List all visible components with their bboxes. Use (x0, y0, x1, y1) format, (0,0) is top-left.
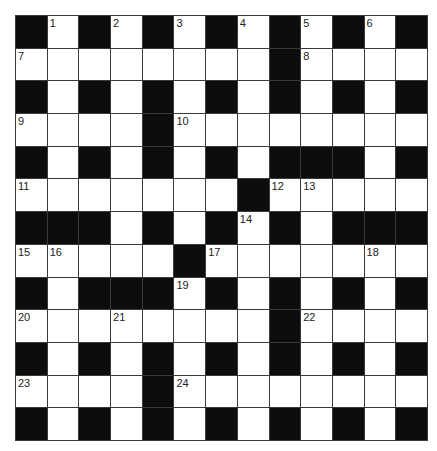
letter-cell[interactable] (238, 114, 269, 146)
letter-cell[interactable] (238, 278, 269, 310)
letter-cell[interactable]: 7 (16, 49, 47, 81)
letter-cell[interactable] (206, 114, 237, 146)
letter-cell[interactable] (174, 310, 205, 342)
letter-cell[interactable] (301, 408, 332, 440)
letter-cell[interactable] (365, 114, 396, 146)
letter-cell[interactable] (396, 114, 427, 146)
letter-cell[interactable] (206, 49, 237, 81)
letter-cell[interactable] (365, 81, 396, 113)
letter-cell[interactable] (396, 245, 427, 277)
letter-cell[interactable] (48, 408, 79, 440)
letter-cell[interactable] (301, 278, 332, 310)
letter-cell[interactable]: 21 (111, 310, 142, 342)
letter-cell[interactable] (48, 343, 79, 375)
letter-cell[interactable] (206, 376, 237, 408)
letter-cell[interactable] (333, 376, 364, 408)
letter-cell[interactable] (396, 310, 427, 342)
letter-cell[interactable]: 12 (270, 179, 301, 211)
letter-cell[interactable] (79, 49, 110, 81)
letter-cell[interactable] (270, 114, 301, 146)
letter-cell[interactable] (174, 49, 205, 81)
letter-cell[interactable] (206, 179, 237, 211)
letter-cell[interactable] (365, 147, 396, 179)
letter-cell[interactable] (301, 114, 332, 146)
letter-cell[interactable] (111, 343, 142, 375)
letter-cell[interactable] (143, 245, 174, 277)
letter-cell[interactable] (79, 376, 110, 408)
letter-cell[interactable]: 19 (174, 278, 205, 310)
letter-cell[interactable] (174, 408, 205, 440)
letter-cell[interactable]: 2 (111, 16, 142, 48)
letter-cell[interactable] (301, 212, 332, 244)
letter-cell[interactable] (111, 179, 142, 211)
letter-cell[interactable] (238, 81, 269, 113)
letter-cell[interactable] (174, 81, 205, 113)
letter-cell[interactable] (365, 376, 396, 408)
letter-cell[interactable] (206, 310, 237, 342)
letter-cell[interactable] (48, 278, 79, 310)
letter-cell[interactable]: 22 (301, 310, 332, 342)
letter-cell[interactable] (365, 179, 396, 211)
letter-cell[interactable] (174, 212, 205, 244)
letter-cell[interactable]: 24 (174, 376, 205, 408)
letter-cell[interactable]: 10 (174, 114, 205, 146)
letter-cell[interactable]: 3 (174, 16, 205, 48)
letter-cell[interactable] (174, 147, 205, 179)
letter-cell[interactable] (396, 49, 427, 81)
letter-cell[interactable] (48, 81, 79, 113)
letter-cell[interactable]: 20 (16, 310, 47, 342)
letter-cell[interactable] (301, 81, 332, 113)
letter-cell[interactable] (111, 147, 142, 179)
letter-cell[interactable] (333, 245, 364, 277)
letter-cell[interactable]: 11 (16, 179, 47, 211)
letter-cell[interactable]: 15 (16, 245, 47, 277)
letter-cell[interactable] (111, 81, 142, 113)
letter-cell[interactable] (79, 114, 110, 146)
letter-cell[interactable] (111, 212, 142, 244)
letter-cell[interactable] (365, 49, 396, 81)
letter-cell[interactable] (238, 147, 269, 179)
letter-cell[interactable] (79, 310, 110, 342)
letter-cell[interactable] (79, 179, 110, 211)
letter-cell[interactable]: 4 (238, 16, 269, 48)
letter-cell[interactable]: 14 (238, 212, 269, 244)
letter-cell[interactable]: 13 (301, 179, 332, 211)
letter-cell[interactable] (301, 343, 332, 375)
letter-cell[interactable] (111, 408, 142, 440)
letter-cell[interactable] (48, 179, 79, 211)
letter-cell[interactable]: 5 (301, 16, 332, 48)
letter-cell[interactable] (111, 49, 142, 81)
letter-cell[interactable]: 9 (16, 114, 47, 146)
letter-cell[interactable] (301, 376, 332, 408)
letter-cell[interactable] (365, 310, 396, 342)
letter-cell[interactable] (48, 376, 79, 408)
letter-cell[interactable] (270, 245, 301, 277)
letter-cell[interactable] (396, 179, 427, 211)
letter-cell[interactable]: 16 (48, 245, 79, 277)
letter-cell[interactable] (143, 179, 174, 211)
letter-cell[interactable] (238, 408, 269, 440)
letter-cell[interactable] (79, 245, 110, 277)
letter-cell[interactable] (238, 343, 269, 375)
letter-cell[interactable] (333, 49, 364, 81)
letter-cell[interactable] (365, 278, 396, 310)
letter-cell[interactable] (365, 343, 396, 375)
letter-cell[interactable] (111, 245, 142, 277)
letter-cell[interactable] (333, 114, 364, 146)
letter-cell[interactable] (333, 310, 364, 342)
letter-cell[interactable]: 23 (16, 376, 47, 408)
letter-cell[interactable] (333, 179, 364, 211)
letter-cell[interactable] (111, 376, 142, 408)
letter-cell[interactable]: 8 (301, 49, 332, 81)
letter-cell[interactable] (48, 147, 79, 179)
letter-cell[interactable] (174, 179, 205, 211)
letter-cell[interactable] (396, 376, 427, 408)
letter-cell[interactable]: 17 (206, 245, 237, 277)
letter-cell[interactable] (238, 49, 269, 81)
letter-cell[interactable] (111, 114, 142, 146)
letter-cell[interactable] (143, 310, 174, 342)
letter-cell[interactable] (238, 376, 269, 408)
letter-cell[interactable]: 1 (48, 16, 79, 48)
letter-cell[interactable] (174, 343, 205, 375)
letter-cell[interactable] (301, 245, 332, 277)
